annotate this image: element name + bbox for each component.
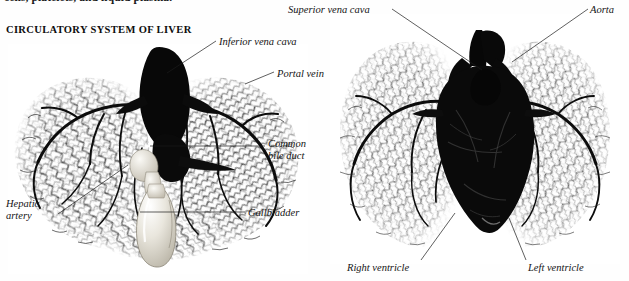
label-aorta-line1: Aorta [590,4,614,15]
label-superior-vena-cava: Superior vena cava [288,4,370,16]
label-gallbladder-line1: Gallbladder [248,207,299,218]
label-aorta: Aorta [590,4,614,16]
label-hepatic-artery: Hepaticartery [6,198,39,221]
label-inferior-vena-cava-line1: Inferior vena cava [219,36,297,47]
label-common-bile-duct: Commonbile duct [268,138,306,161]
label-common-bile-duct-line1: Common [268,138,306,149]
label-right-ventricle: Right ventricle [347,262,409,274]
label-portal-vein-line1: Portal vein [277,68,324,79]
figure-title: CIRCULATORY SYSTEM OF LIVER [6,24,192,35]
label-portal-vein: Portal vein [277,68,324,80]
label-common-bile-duct-line2: bile duct [268,150,304,161]
label-hepatic-artery-line2: artery [6,210,32,221]
label-left-ventricle: Left ventricle [528,262,584,274]
label-inferior-vena-cava: Inferior vena cava [219,36,297,48]
heart-lung-cast-image [330,14,620,264]
label-gallbladder: Gallbladder [248,207,299,219]
label-right-ventricle-line1: Right ventricle [347,262,409,273]
label-hepatic-artery-line1: Hepatic [6,198,39,209]
liver-cast-image [8,44,308,274]
figure-page: cells, platelets, and liquid plasma. CIR… [0,0,629,281]
body-text-clipped: cells, platelets, and liquid plasma. [4,0,172,3]
label-superior-vena-cava-line1: Superior vena cava [288,4,370,15]
label-left-ventricle-line1: Left ventricle [528,262,584,273]
